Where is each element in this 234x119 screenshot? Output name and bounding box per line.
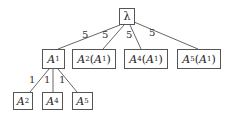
node-A5: A5 [72, 92, 93, 110]
edge-root-A5A1 [134, 22, 198, 49]
node-A5-of-A1: A5(A1) [177, 49, 221, 69]
edge-label-root-A4A1: 5 [126, 30, 132, 40]
edge-label-A1-A5: 1 [59, 75, 65, 85]
edge-label-A1-A4: 1 [44, 75, 50, 85]
node-A4-of-A1: A4(A1) [124, 49, 168, 69]
root-label: λ [124, 10, 131, 23]
node-A2-of-A1: A2(A1) [72, 49, 116, 69]
node-A4: A4 [42, 92, 63, 110]
edge-label-root-A1: 5 [82, 30, 88, 40]
edge-label-A1-A2: 1 [29, 75, 35, 85]
edge-label-root-A5A1: 5 [149, 28, 155, 38]
root-node-lambda: λ [119, 8, 135, 25]
node-A2: A2 [13, 92, 33, 110]
edge-root-A1 [58, 25, 120, 49]
node-A1: A1 [42, 49, 65, 69]
edge-label-root-A2A1: 5 [102, 30, 108, 40]
